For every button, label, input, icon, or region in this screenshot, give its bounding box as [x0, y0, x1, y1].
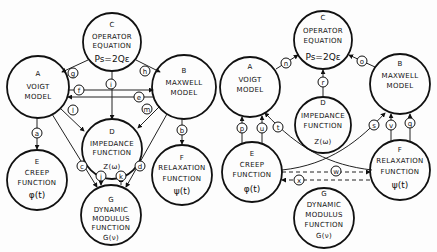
svg-text:MAXWELL: MAXWELL: [382, 72, 419, 80]
svg-text:MODEL: MODEL: [25, 93, 52, 101]
svg-text:MODEL: MODEL: [171, 89, 198, 97]
svg-text:FUNCTION: FUNCTION: [163, 175, 202, 183]
right-node-f-relaxation-function: F RELAXATION FUNCTION ψ(t): [370, 140, 430, 200]
svg-text:CREEP: CREEP: [240, 161, 264, 169]
svg-text:MODULUS: MODULUS: [92, 215, 130, 223]
svg-text:OPERATOR: OPERATOR: [92, 33, 132, 41]
svg-text:d: d: [138, 163, 142, 171]
left-edge-label-c: c: [77, 161, 87, 171]
svg-text:MAXWELL: MAXWELL: [166, 79, 203, 87]
svg-text:CREEP: CREEP: [25, 169, 49, 177]
svg-text:OPERATOR: OPERATOR: [303, 27, 343, 35]
svg-text:ψ(t): ψ(t): [174, 186, 191, 196]
svg-text:Ps=2Qε: Ps=2Qε: [305, 52, 340, 62]
svg-text:u: u: [260, 125, 264, 133]
svg-text:v: v: [389, 122, 393, 130]
svg-text:a: a: [35, 130, 39, 138]
left-edge-label-f: f: [74, 85, 84, 95]
svg-text:i: i: [110, 81, 112, 89]
svg-text:G: G: [321, 190, 327, 198]
right-node-a-voigt-model: A VOIGT MODEL: [220, 57, 280, 117]
svg-text:FUNCTION: FUNCTION: [233, 171, 272, 179]
svg-text:o: o: [360, 58, 364, 66]
svg-text:VOIGT: VOIGT: [238, 76, 262, 84]
left-edge-label-d: d: [135, 161, 145, 171]
svg-text:IMPEDANCE: IMPEDANCE: [90, 140, 134, 148]
right-edge-label-w: w: [331, 166, 341, 176]
svg-text:FUNCTION: FUNCTION: [381, 168, 420, 176]
svg-text:MODEL: MODEL: [237, 86, 264, 94]
svg-text:n: n: [284, 60, 288, 68]
svg-text:FUNCTION: FUNCTION: [305, 221, 344, 229]
svg-text:B: B: [181, 67, 186, 75]
svg-text:e: e: [137, 94, 141, 102]
svg-text:c: c: [80, 163, 84, 171]
svg-text:g: g: [71, 70, 75, 78]
svg-text:φ(t): φ(t): [244, 184, 261, 194]
svg-text:h: h: [143, 68, 147, 76]
svg-text:b: b: [180, 127, 185, 135]
svg-text:D: D: [109, 128, 115, 136]
svg-text:RELAXATION: RELAXATION: [158, 164, 205, 172]
left-edge-label-j: j: [96, 171, 106, 181]
svg-text:FUNCTION: FUNCTION: [304, 122, 343, 130]
svg-text:r: r: [322, 79, 325, 87]
svg-text:l: l: [72, 107, 74, 115]
left-node-a-voigt-model: A VOIGT MODEL: [7, 56, 69, 118]
svg-text:φ(t): φ(t): [29, 190, 46, 200]
left-node-d-impedance-function: D IMPEDANCE FUNCTION Z(ω): [82, 119, 142, 179]
left-node-g-dynamic-modulus-function: G DYNAMIC MODULUS FUNCTION G(ν): [81, 185, 141, 245]
left-node-f-relaxation-function: F RELAXATION FUNCTION ψ(t): [152, 145, 212, 205]
left-node-c-operator-equation: C OPERATOR EQUATION Ps=2Qε: [83, 13, 141, 71]
svg-text:C: C: [320, 14, 325, 22]
svg-text:B: B: [397, 60, 402, 68]
left-edge-label-a: a: [32, 128, 42, 138]
right-edge-label-q: q: [405, 118, 415, 128]
right-edge-label-u: u: [257, 123, 267, 133]
svg-text:Z(ω): Z(ω): [314, 138, 331, 146]
svg-text:FUNCTION: FUNCTION: [18, 179, 57, 187]
svg-text:w: w: [333, 168, 339, 176]
svg-text:RELAXATION: RELAXATION: [376, 157, 423, 165]
svg-text:ψ(t): ψ(t): [392, 180, 409, 190]
svg-text:x: x: [297, 177, 301, 185]
svg-text:A: A: [35, 70, 40, 78]
svg-text:FUNCTION: FUNCTION: [93, 149, 132, 157]
svg-text:G(ν): G(ν): [316, 232, 332, 240]
right-node-b-maxwell-model: B MAXWELL MODEL: [370, 54, 430, 114]
svg-text:s: s: [372, 122, 376, 130]
right-edge-label-x: x: [294, 175, 304, 185]
right-edge-label-p: p: [237, 123, 247, 133]
svg-text:Z(ω): Z(ω): [103, 163, 120, 171]
right-edge-label-r: r: [318, 77, 328, 87]
svg-text:p: p: [240, 125, 245, 133]
svg-text:MODEL: MODEL: [387, 82, 414, 90]
svg-text:FUNCTION: FUNCTION: [92, 224, 131, 232]
left-edge-label-g: g: [68, 68, 78, 78]
svg-text:F: F: [398, 146, 402, 154]
right-edge-label-o: o: [357, 56, 367, 66]
svg-text:q: q: [408, 120, 412, 128]
svg-text:A: A: [247, 63, 252, 71]
left-edge-label-m: m: [142, 104, 152, 114]
svg-text:C: C: [109, 21, 114, 29]
svg-text:D: D: [320, 99, 326, 107]
right-node-c-operator-equation: C OPERATOR EQUATION Ps=2Qε: [294, 11, 352, 69]
svg-text:F: F: [180, 154, 184, 162]
svg-text:G: G: [108, 196, 114, 204]
diagram-root: C OPERATOR EQUATION Ps=2Qε A VOIGT MODEL…: [0, 0, 437, 252]
svg-text:IMPEDANCE: IMPEDANCE: [301, 112, 345, 120]
svg-text:t: t: [277, 124, 280, 132]
svg-text:DYNAMIC: DYNAMIC: [94, 206, 128, 214]
left-edge-label-l: l: [68, 105, 78, 115]
left-edge-label-k: k: [116, 171, 126, 181]
svg-text:VOIGT: VOIGT: [26, 83, 50, 91]
left-node-b-maxwell-model: B MAXWELL MODEL: [152, 55, 216, 119]
svg-text:DYNAMIC: DYNAMIC: [307, 201, 341, 209]
right-edge-label-t: t: [273, 122, 283, 132]
left-edge-label-b: b: [177, 125, 187, 135]
viscoelastic-relations-diagram: C OPERATOR EQUATION Ps=2Qε A VOIGT MODEL…: [0, 0, 437, 252]
svg-text:E: E: [250, 150, 255, 158]
left-edge-label-i: i: [106, 79, 116, 89]
svg-text:EQUATION: EQUATION: [93, 42, 132, 50]
